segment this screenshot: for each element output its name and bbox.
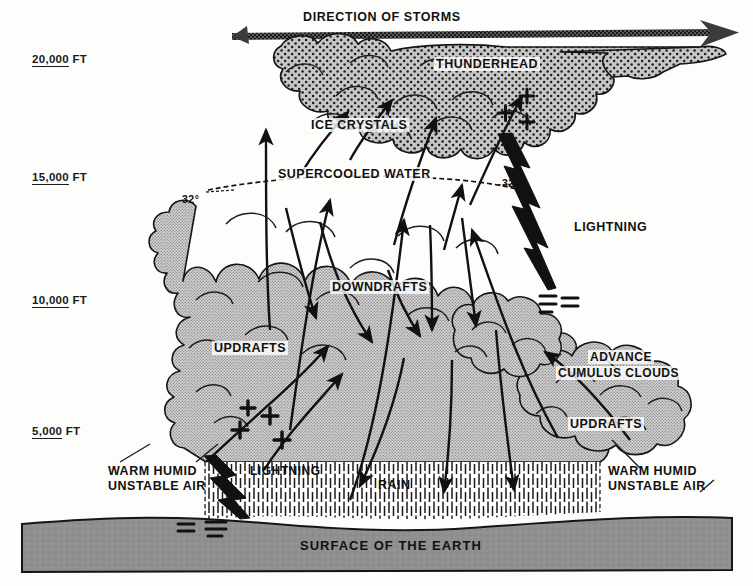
- charge-markers-negative-cloudbase: [540, 296, 578, 312]
- altitude-tick-15000-unit: FT: [72, 171, 87, 183]
- label-ice-crystals: ICE CRYSTALS: [309, 118, 409, 132]
- altitude-tick-5000-unit: FT: [66, 425, 81, 437]
- label-advance-cumulus-line2: CUMULUS CLOUDS: [556, 366, 681, 380]
- label-warm-humid-left-line1: WARM HUMID: [108, 464, 206, 479]
- altitude-tick-5000-value: 5,000: [32, 425, 62, 439]
- label-supercooled-water: SUPERCOOLED WATER: [276, 167, 433, 181]
- label-freezing-right: 32°F: [502, 177, 526, 189]
- label-warm-humid-left: WARM HUMID UNSTABLE AIR: [108, 464, 206, 494]
- altitude-tick-20000: 20,000 FT: [32, 53, 87, 65]
- altitude-tick-15000-value: 15,000: [32, 171, 69, 185]
- lightning-bolt-upper: [498, 133, 556, 290]
- label-thunderhead: THUNDERHEAD: [434, 57, 540, 71]
- label-warm-humid-right-line2: UNSTABLE AIR: [608, 479, 706, 494]
- label-warm-humid-right-line1: WARM HUMID: [608, 464, 706, 479]
- altitude-tick-15000: 15,000 FT: [32, 171, 87, 183]
- diagram-title: DIRECTION OF STORMS: [303, 10, 461, 24]
- altitude-tick-10000-value: 10,000: [32, 294, 69, 308]
- label-surface-of-the-earth: SURFACE OF THE EARTH: [300, 538, 482, 553]
- label-warm-humid-right: WARM HUMID UNSTABLE AIR: [608, 464, 706, 494]
- label-updrafts-left: UPDRAFTS: [212, 341, 288, 355]
- thunderstorm-diagram: DIRECTION OF STORMS 20,000 FT 15,000 FT …: [0, 0, 753, 586]
- altitude-tick-10000: 10,000 FT: [32, 294, 87, 306]
- label-rain: RAIN: [378, 478, 411, 492]
- altitude-tick-20000-unit: FT: [72, 53, 87, 65]
- label-downdrafts: DOWNDRAFTS: [330, 280, 429, 294]
- label-lightning-upper: LIGHTNING: [574, 220, 647, 234]
- altitude-tick-10000-unit: FT: [72, 294, 87, 306]
- label-advance-cumulus-line1: ADVANCE: [588, 350, 654, 364]
- altitude-tick-20000-value: 20,000: [32, 53, 69, 67]
- label-freezing-left: 32°: [182, 193, 199, 205]
- label-lightning-lower: LIGHTNING: [250, 464, 321, 478]
- label-warm-humid-left-line2: UNSTABLE AIR: [108, 479, 206, 494]
- altitude-tick-5000: 5,000 FT: [32, 425, 80, 437]
- label-updrafts-right: UPDRAFTS: [568, 417, 644, 431]
